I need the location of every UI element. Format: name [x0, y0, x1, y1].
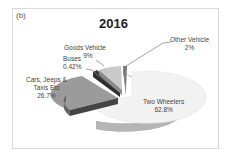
label-two-wheelers: Two Wheelers 62.8% — [143, 98, 184, 114]
label-buses: Buses 0.42% — [63, 55, 81, 71]
label-cars: Cars, Jeeps & Taxis Etc 26.7% — [26, 76, 67, 100]
leader-goods — [96, 60, 104, 66]
leader-other — [126, 42, 171, 66]
label-other-vehicle: Other Vehicle 2% — [170, 36, 209, 52]
